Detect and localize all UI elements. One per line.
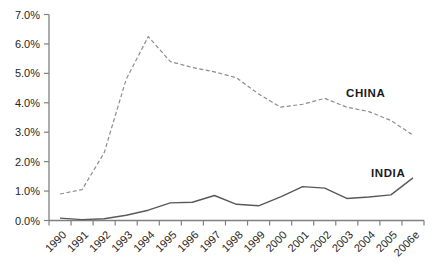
x-tick-label: 1999 xyxy=(241,228,267,254)
x-tick-label: 1992 xyxy=(87,228,113,254)
x-tick-label: 1997 xyxy=(197,228,223,254)
x-tick-label: 2000 xyxy=(263,228,289,254)
x-tick-label: 1998 xyxy=(219,228,245,254)
y-tick-label: 5.0% xyxy=(15,67,40,79)
y-tick-label: 6.0% xyxy=(15,38,40,50)
series-label-india: INDIA xyxy=(371,167,405,179)
x-tick-label: 1994 xyxy=(131,228,157,254)
x-tick-label: 2002 xyxy=(307,228,333,254)
x-tick-label: 2001 xyxy=(285,228,311,254)
y-tick-label: 3.0% xyxy=(15,126,40,138)
y-tick-label: 7.0% xyxy=(15,9,40,21)
series-label-china: CHINA xyxy=(346,87,385,99)
chart: 0.0%1.0%2.0%3.0%4.0%5.0%6.0%7.0%19901991… xyxy=(0,0,440,267)
x-tick-label: 1996 xyxy=(175,228,201,254)
y-tick-label: 2.0% xyxy=(15,156,40,168)
y-tick-label: 0.0% xyxy=(15,215,40,227)
chart-canvas: 0.0%1.0%2.0%3.0%4.0%5.0%6.0%7.0%19901991… xyxy=(0,0,440,267)
x-tick-label: 2006e xyxy=(391,228,421,258)
x-tick-label: 2003 xyxy=(329,228,355,254)
y-tick-label: 4.0% xyxy=(15,97,40,109)
x-tick-label: 2004 xyxy=(351,228,377,254)
x-tick-label: 1990 xyxy=(43,228,69,254)
series-line-china xyxy=(60,37,413,194)
y-tick-label: 1.0% xyxy=(15,185,40,197)
x-tick-label: 1995 xyxy=(153,228,179,254)
x-tick-label: 1991 xyxy=(65,228,91,254)
x-tick-label: 1993 xyxy=(109,228,135,254)
series-line-india xyxy=(60,178,413,220)
